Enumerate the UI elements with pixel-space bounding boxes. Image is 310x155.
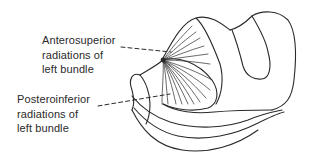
- left-wall: [130, 60, 163, 124]
- label-anterosuperior-radiations: Anterosuperior radiations of left bundle: [42, 33, 116, 77]
- radiations-fan: [162, 26, 212, 104]
- label-line: radiations of: [42, 48, 116, 63]
- label-line: Anterosuperior: [42, 33, 116, 48]
- lower-rims: [132, 96, 284, 151]
- label-posteroinferior-radiations: Posteroinferior radiations of left bundl…: [17, 92, 90, 136]
- label-line: radiations of: [17, 107, 90, 122]
- diagram-canvas: Anterosuperior radiations of left bundle…: [0, 0, 310, 155]
- bundle-origin-dot: [161, 58, 166, 63]
- label-line: left bundle: [42, 62, 116, 77]
- leader-anterosuperior: [121, 47, 171, 52]
- label-line: left bundle: [17, 121, 90, 136]
- label-line: Posteroinferior: [17, 92, 90, 107]
